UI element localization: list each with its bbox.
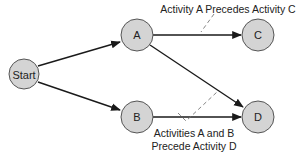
node-start: Start — [9, 59, 39, 89]
annotation-a-precedes-c: Activity A Precedes Activity C — [160, 3, 296, 15]
edge-a-to-d — [150, 45, 243, 107]
annotation-ab-precede-d-line2: Precede Activity D — [151, 140, 237, 152]
annotation-ab-precede-d-line1: Activities A and B — [154, 127, 235, 139]
node-b-label: B — [133, 111, 140, 123]
precedence-diagram: Start A B C D Activity A Precedes Activi… — [0, 0, 300, 157]
callout-line-a-precedes-c — [201, 14, 214, 32]
node-c: C — [242, 19, 274, 51]
node-a: A — [121, 19, 153, 51]
node-start-label: Start — [12, 69, 35, 81]
edge-start-to-a — [38, 42, 120, 66]
edge-start-to-b — [38, 82, 120, 110]
node-d: D — [242, 101, 274, 133]
node-c-label: C — [254, 29, 262, 41]
node-a-label: A — [133, 29, 141, 41]
node-b: B — [121, 101, 153, 133]
node-d-label: D — [254, 111, 262, 123]
